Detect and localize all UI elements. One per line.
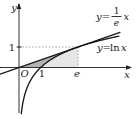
figure-canvas: y x O 1 e 1 y= 1 e x y= ln x [0, 0, 137, 119]
math-figure: y x O 1 e 1 y= 1 e x y= ln x [0, 0, 137, 119]
y-axis-label: y [10, 2, 17, 13]
curve-equation-prefix: y= [96, 42, 111, 53]
line-equation-variable: x [124, 11, 130, 22]
curve-equation-variable: x [121, 42, 127, 53]
x-axis-label: x [124, 69, 130, 80]
line-equation-prefix: y= [95, 11, 110, 22]
curve-equation-label: y= ln x [96, 42, 127, 53]
y-axis-arrow-icon [17, 3, 21, 9]
origin-label: O [20, 68, 28, 79]
line-equation-denominator: e [114, 18, 119, 28]
line-equation-numerator: 1 [114, 6, 120, 16]
curve-equation-fn: ln [110, 42, 120, 53]
y-tick-one-label: 1 [9, 42, 15, 53]
line-equation-label: y= 1 e x [95, 6, 130, 28]
x-tick-one-label: 1 [39, 68, 45, 79]
region-under-curve [41, 47, 78, 68]
x-tick-e-label: e [74, 68, 80, 79]
